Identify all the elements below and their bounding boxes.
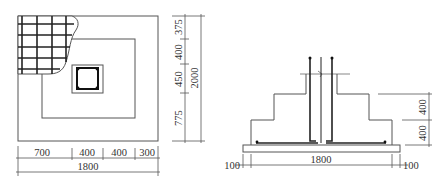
rebar-mesh-cutaway (18, 16, 78, 74)
column-bar-right (326, 57, 332, 141)
plan-view (18, 16, 158, 141)
base-slab (243, 145, 400, 152)
plan-dim-right-3: 775 (173, 110, 184, 126)
column-bar-left (310, 57, 316, 141)
plan-dim-bottom-0: 700 (34, 147, 50, 158)
column-corner-bars (77, 68, 99, 90)
drawing-canvas: 375 400 450 775 2000 700 400 400 300 180… (0, 0, 444, 187)
plan-dim-right-total: 2000 (189, 68, 200, 89)
section-dim-right-1: 400 (417, 125, 428, 141)
plan-dim-bottom-total: 1800 (78, 161, 99, 172)
plan-dim-right-1: 400 (173, 44, 184, 60)
section-dim-right-0: 400 (417, 99, 428, 115)
section-dim-bottom-left: 100 (224, 160, 240, 171)
plan-dim-right-2: 450 (173, 71, 184, 87)
column-rebar-cage (77, 68, 98, 89)
section-rebar (256, 57, 386, 143)
plan-dim-bottom-3: 300 (139, 147, 155, 158)
section-dim-bottom-right: 100 (403, 160, 419, 171)
plan-dim-right-0: 375 (173, 19, 184, 35)
section-dim-bottom-total: 1800 (311, 154, 332, 165)
plan-dim-bottom-1: 400 (79, 147, 95, 158)
plan-dim-bottom-2: 400 (111, 147, 127, 158)
